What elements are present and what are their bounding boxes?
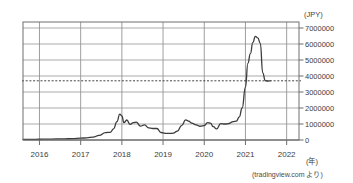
y-axis-tick-label: 4000000 bbox=[305, 72, 334, 81]
x-axis-tick-label: 2022 bbox=[278, 150, 296, 159]
x-axis-tick-label: 2019 bbox=[154, 150, 172, 159]
x-axis-tick-label: 2017 bbox=[72, 150, 90, 159]
x-axis-tick-label: 2020 bbox=[195, 150, 213, 159]
x-axis-tick-label: 2016 bbox=[31, 150, 49, 159]
x-axis-tick-label: 2018 bbox=[113, 150, 131, 159]
y-axis-tick-label: 3000000 bbox=[305, 88, 334, 97]
y-axis-unit-label: (JPY) bbox=[304, 10, 323, 19]
x-axis-tick-label: 2021 bbox=[237, 150, 255, 159]
gridlines-group bbox=[23, 28, 299, 140]
source-attribution: (tradingview.com より) bbox=[252, 169, 323, 179]
y-axis-tick-label: 0 bbox=[305, 136, 309, 145]
y-axis-tick-label: 6000000 bbox=[305, 40, 334, 49]
chart-plot-area bbox=[0, 0, 353, 183]
bitcoin-price-chart: (JPY) (年) (tradingview.com より) 010000002… bbox=[0, 0, 353, 183]
y-axis-tick-label: 1000000 bbox=[305, 120, 334, 129]
y-axis-tick-label: 7000000 bbox=[305, 24, 334, 33]
y-axis-tick-label: 5000000 bbox=[305, 56, 334, 65]
axis-ticks-group bbox=[39, 28, 303, 145]
x-axis-unit-label: (年) bbox=[306, 155, 318, 166]
y-axis-tick-label: 2000000 bbox=[305, 104, 334, 113]
